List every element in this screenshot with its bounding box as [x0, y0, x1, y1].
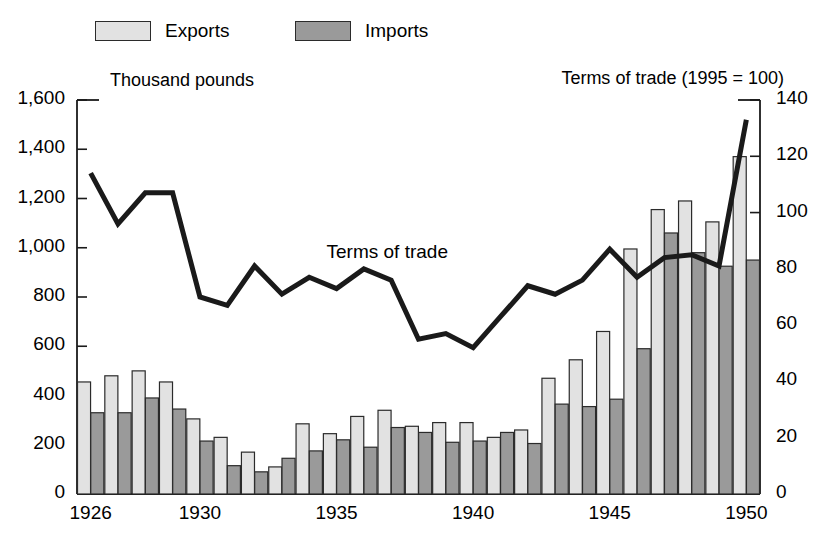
bar-imports-1934 — [309, 451, 322, 494]
bar-exports-1940 — [460, 423, 473, 494]
bar-exports-1935 — [323, 434, 336, 494]
bar-exports-1928 — [132, 371, 145, 494]
bar-imports-1935 — [337, 440, 350, 494]
bar-exports-1943 — [542, 378, 555, 494]
terms-of-trade-line — [91, 120, 747, 348]
bar-exports-1933 — [269, 467, 282, 494]
bar-exports-1932 — [241, 452, 254, 494]
bar-imports-1943 — [555, 404, 568, 494]
bar-imports-1938 — [419, 432, 432, 494]
bar-imports-1932 — [255, 472, 268, 494]
bar-imports-1931 — [227, 466, 240, 494]
bar-exports-1926 — [78, 382, 91, 494]
bar-imports-1940 — [473, 441, 486, 494]
bar-imports-1933 — [282, 458, 295, 494]
bar-imports-1941 — [501, 432, 514, 494]
bar-exports-1938 — [405, 426, 418, 494]
bar-imports-1939 — [446, 442, 459, 494]
bar-imports-1942 — [528, 444, 541, 494]
bar-imports-1926 — [91, 413, 104, 494]
bar-exports-1937 — [378, 410, 391, 494]
bar-imports-1927 — [118, 413, 131, 494]
bar-exports-1927 — [105, 376, 118, 494]
bar-imports-1936 — [364, 447, 377, 494]
bar-exports-1948 — [679, 201, 692, 494]
bar-exports-1941 — [487, 437, 500, 494]
bar-exports-1950 — [733, 157, 746, 494]
bar-exports-1947 — [651, 210, 664, 494]
bar-exports-1931 — [214, 437, 227, 494]
bar-exports-1942 — [515, 430, 528, 494]
bar-imports-1930 — [200, 441, 213, 494]
bar-exports-1939 — [433, 423, 446, 494]
bar-exports-1945 — [597, 331, 610, 494]
bar-imports-1928 — [145, 398, 158, 494]
chart-container: Exports Imports Thousand pounds Terms of… — [0, 0, 839, 542]
bar-imports-1945 — [610, 399, 623, 494]
bar-exports-1946 — [624, 249, 637, 494]
bar-imports-1949 — [719, 266, 732, 494]
bar-exports-1936 — [351, 416, 364, 494]
bar-imports-1948 — [692, 253, 705, 494]
bar-exports-1929 — [159, 382, 172, 494]
bar-imports-1950 — [746, 260, 759, 494]
bar-imports-1947 — [664, 233, 677, 494]
bar-exports-1944 — [569, 360, 582, 494]
bar-exports-1930 — [187, 419, 200, 494]
bar-imports-1929 — [173, 409, 186, 494]
bar-imports-1946 — [637, 349, 650, 494]
plot-area — [0, 0, 839, 542]
bar-exports-1934 — [296, 424, 309, 494]
bar-imports-1937 — [391, 428, 404, 494]
bar-imports-1944 — [583, 407, 596, 494]
